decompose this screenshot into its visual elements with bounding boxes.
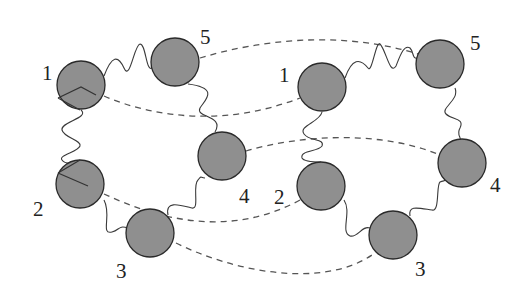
- bead-left-2: [56, 160, 104, 208]
- spring-1-2-left: [61, 110, 82, 163]
- bead-right-3: [369, 211, 417, 259]
- diagram-canvas: 1 2 3 4 5 1 2 3 4 5: [0, 0, 531, 297]
- label-right-4: 4: [490, 173, 501, 197]
- bead-right-1: [298, 63, 346, 111]
- spring-2-3-right: [344, 200, 370, 236]
- label-left-5: 5: [200, 25, 211, 49]
- label-left-1: 1: [42, 61, 53, 85]
- spring-1-5-right: [345, 44, 418, 78]
- left-ring-beads: [56, 38, 246, 257]
- ring-polymer-diagram: 1 2 3 4 5 1 2 3 4 5: [0, 0, 531, 297]
- label-right-1: 1: [279, 63, 290, 87]
- right-ring-beads: [297, 40, 486, 259]
- bead-left-5: [151, 38, 199, 86]
- spring-1-5-left: [104, 44, 152, 76]
- bead-right-4: [438, 139, 486, 187]
- spring-3-4-right: [410, 178, 448, 216]
- label-right-3: 3: [415, 257, 426, 281]
- link-3-3: [176, 243, 372, 274]
- spring-3-4-left: [168, 177, 205, 215]
- label-left-2: 2: [33, 197, 44, 221]
- spring-5-4-right: [445, 88, 461, 140]
- spring-5-4-left: [188, 84, 217, 132]
- label-right-5: 5: [470, 31, 481, 55]
- spring-1-2-right: [302, 112, 323, 162]
- bead-right-2: [297, 162, 345, 210]
- bead-right-5: [416, 40, 464, 88]
- bead-left-3: [126, 209, 174, 257]
- link-4-4: [246, 138, 440, 155]
- label-right-2: 2: [274, 185, 285, 209]
- label-left-3: 3: [116, 259, 127, 283]
- spring-2-3-left: [104, 200, 128, 232]
- bead-left-4: [198, 132, 246, 180]
- label-left-4: 4: [239, 184, 250, 208]
